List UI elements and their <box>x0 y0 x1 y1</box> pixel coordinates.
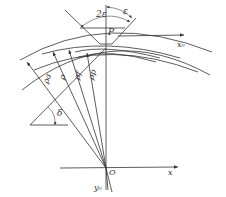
label-x: x <box>168 168 173 177</box>
arc-2 <box>22 51 210 90</box>
label-rho: ρ <box>57 73 68 82</box>
label-x0: x₀ <box>177 40 186 49</box>
arc-4 <box>34 54 198 72</box>
geometry-diagram: 2ε ε P x₀ ρa ρ ρf ρp δ O x y₀ <box>0 0 226 197</box>
label-delta: δ <box>57 108 62 118</box>
label-point-p: P <box>107 27 115 37</box>
label-rho-f: ρf <box>72 68 84 81</box>
delta-arc <box>48 107 55 125</box>
line-to-p <box>30 48 106 125</box>
x0-axis-arrow <box>118 35 184 36</box>
radius-rho-f <box>69 50 106 168</box>
label-origin: O <box>109 168 116 177</box>
label-rho-p: ρp <box>86 68 98 81</box>
x-axis <box>60 167 178 168</box>
radii <box>27 48 106 168</box>
arc-3 <box>42 46 180 58</box>
label-y0: y₀ <box>93 183 103 192</box>
label-two-epsilon: 2ε <box>95 9 107 19</box>
label-epsilon: ε <box>123 6 128 16</box>
